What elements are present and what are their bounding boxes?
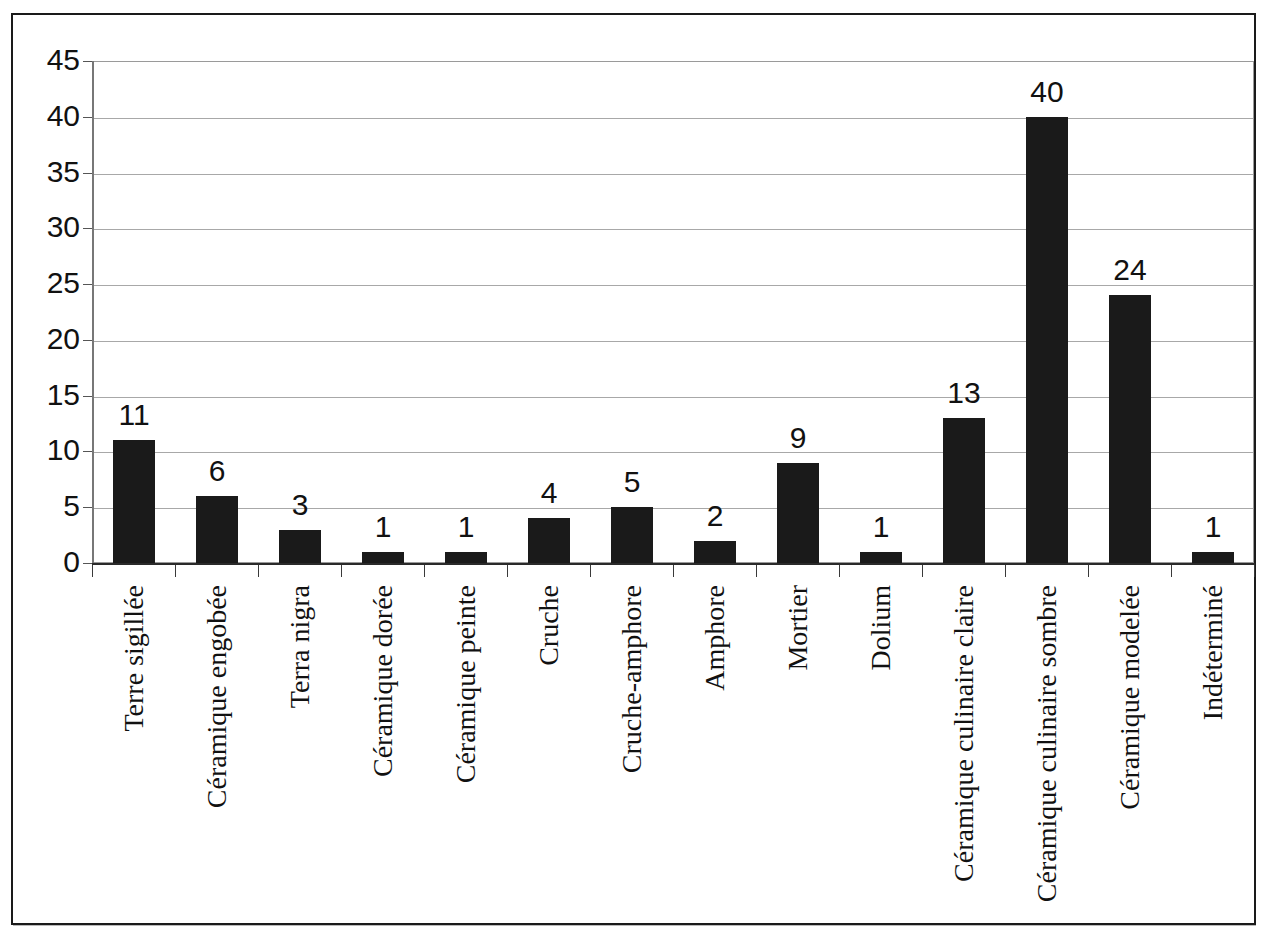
y-axis-tick-mark	[83, 451, 92, 452]
x-axis-category-text: Indéterminé	[1199, 585, 1227, 720]
y-axis-line	[92, 61, 94, 565]
y-axis-tick-mark	[83, 228, 92, 229]
x-axis-category-text: Terra nigra	[286, 585, 314, 708]
x-axis-tick-mark	[839, 565, 840, 577]
y-axis-tick-mark	[83, 563, 92, 564]
y-axis-tick-label: 35	[20, 157, 80, 187]
bar-value-label: 1	[1163, 512, 1263, 542]
x-axis-category-text: Céramique culinaire sombre	[1033, 585, 1061, 902]
bar-value-label: 1	[416, 512, 516, 542]
y-axis-tick-label: 20	[20, 324, 80, 354]
bar	[1192, 552, 1234, 563]
x-axis-tick-mark	[1088, 565, 1089, 577]
y-axis-tick-label: 0	[20, 547, 80, 577]
x-axis-category-label: Céramique peinte	[424, 585, 507, 915]
x-axis-tick-mark	[175, 565, 176, 577]
bar	[196, 496, 238, 563]
x-axis-category-label: Terra nigra	[258, 585, 341, 915]
x-axis-tick-mark	[673, 565, 674, 577]
x-axis-category-label: Mortier	[756, 585, 839, 915]
x-axis-category-text: Céramique dorée	[369, 585, 397, 777]
bar	[1026, 117, 1068, 563]
bar-value-label: 5	[582, 467, 682, 497]
x-axis-category-label: Céramique modelée	[1088, 585, 1171, 915]
x-axis-category-text: Terre sigillée	[120, 585, 148, 732]
x-axis-tick-mark	[507, 565, 508, 577]
y-axis-tick-label: 40	[20, 101, 80, 131]
bar-value-label: 2	[665, 501, 765, 531]
bar-value-label: 6	[167, 456, 267, 486]
y-axis-tick-label: 10	[20, 435, 80, 465]
x-axis-category-text: Céramique culinaire claire	[950, 585, 978, 882]
y-axis-tick-mark	[83, 61, 92, 62]
bar	[528, 518, 570, 563]
x-axis-tick-mark	[1005, 565, 1006, 577]
x-axis-category-text: Cruche-amphore	[618, 585, 646, 773]
x-axis-category-label: Amphore	[673, 585, 756, 915]
scan-bottom-edge	[13, 925, 1256, 926]
bar	[362, 552, 404, 563]
x-axis-tick-mark	[1254, 565, 1255, 577]
bar	[860, 552, 902, 563]
bar-value-label: 24	[1080, 255, 1180, 285]
x-axis-category-label: Céramique dorée	[341, 585, 424, 915]
x-axis-tick-mark	[1171, 565, 1172, 577]
bar-chart: 45403530252015105011Terre sigillée6Céram…	[0, 0, 1268, 933]
y-axis-tick-label: 15	[20, 380, 80, 410]
y-axis-tick-label: 25	[20, 268, 80, 298]
x-axis-category-label: Céramique culinaire sombre	[1005, 585, 1088, 915]
bar-value-label: 9	[748, 423, 848, 453]
x-axis-tick-mark	[922, 565, 923, 577]
x-axis-tick-mark	[424, 565, 425, 577]
x-axis-category-label: Cruche-amphore	[590, 585, 673, 915]
x-axis-category-text: Céramique modelée	[1116, 585, 1144, 810]
y-axis-tick-mark	[83, 173, 92, 174]
y-axis-tick-mark	[83, 507, 92, 508]
bar	[445, 552, 487, 563]
x-axis-category-label: Cruche	[507, 585, 590, 915]
x-axis-tick-mark	[341, 565, 342, 577]
bar	[1109, 295, 1151, 563]
x-axis-category-text: Céramique peinte	[452, 585, 480, 783]
gridline	[93, 341, 1253, 342]
chart-page: 45403530252015105011Terre sigillée6Céram…	[0, 0, 1268, 933]
gridline	[93, 452, 1253, 453]
gridline	[93, 285, 1253, 286]
x-axis-category-label: Indéterminé	[1171, 585, 1254, 915]
x-axis-category-label: Dolium	[839, 585, 922, 915]
y-axis-tick-label: 5	[20, 491, 80, 521]
x-axis-category-text: Céramique engobée	[203, 585, 231, 808]
y-axis-tick-mark	[83, 117, 92, 118]
x-axis-tick-mark	[258, 565, 259, 577]
y-axis-tick-mark	[83, 340, 92, 341]
bar	[694, 541, 736, 563]
x-axis-category-text: Dolium	[867, 585, 895, 671]
gridline	[93, 397, 1253, 398]
x-axis-category-text: Mortier	[784, 585, 812, 671]
x-axis-tick-mark	[590, 565, 591, 577]
y-axis-tick-label: 30	[20, 212, 80, 242]
bar-value-label: 13	[914, 378, 1014, 408]
x-axis-tick-mark	[756, 565, 757, 577]
y-axis-tick-mark	[83, 284, 92, 285]
x-axis-category-label: Terre sigillée	[92, 585, 175, 915]
y-axis-tick-mark	[83, 396, 92, 397]
x-axis-tick-mark	[92, 565, 93, 577]
bar	[279, 530, 321, 563]
bar-value-label: 40	[997, 77, 1097, 107]
x-axis-category-label: Céramique culinaire claire	[922, 585, 1005, 915]
x-axis-category-label: Céramique engobée	[175, 585, 258, 915]
gridline	[93, 174, 1253, 175]
y-axis-tick-label: 45	[20, 45, 80, 75]
bar	[611, 507, 653, 563]
bar	[113, 440, 155, 563]
gridline	[93, 118, 1253, 119]
bar-value-label: 1	[831, 512, 931, 542]
bar-value-label: 11	[84, 400, 184, 430]
x-axis-category-text: Amphore	[701, 585, 729, 691]
gridline	[93, 229, 1253, 230]
bar	[777, 463, 819, 563]
x-axis-category-text: Cruche	[535, 585, 563, 666]
bar	[943, 418, 985, 563]
